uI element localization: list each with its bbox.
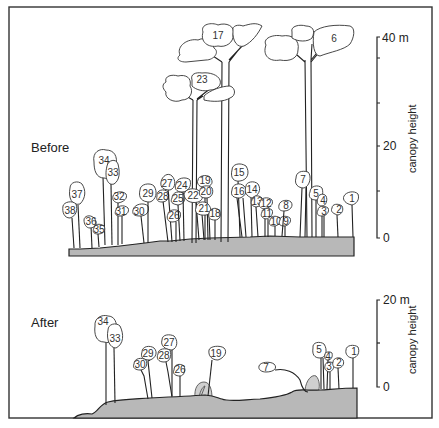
after-tree-label-5: 5	[316, 344, 322, 355]
tree-3: 3	[317, 206, 328, 238]
after-tree-28: 28	[157, 349, 172, 397]
tree-label-2: 2	[336, 204, 342, 215]
after-tree-label-30: 30	[134, 359, 146, 370]
before-scale-bottom-label: 0	[383, 231, 390, 245]
tree-label-15: 15	[233, 167, 245, 178]
tree-9: 9	[279, 216, 290, 237]
tree-label-21: 21	[198, 203, 210, 214]
tree-32: 32	[113, 191, 127, 246]
tree-31: 31	[115, 206, 128, 245]
tree-label-25: 25	[172, 193, 184, 204]
tree-27: 27	[161, 174, 175, 242]
tree-label-1: 1	[349, 193, 355, 204]
after-tree-label-7: 7	[263, 362, 269, 373]
tree-label-30: 30	[133, 206, 145, 217]
tree-30: 30	[133, 204, 149, 243]
tree-label-38: 38	[64, 205, 76, 216]
tree-38: 38	[63, 202, 77, 248]
after-tree-label-28: 28	[158, 350, 170, 361]
after-label: After	[31, 315, 59, 330]
tree-label-9: 9	[283, 216, 289, 227]
after-tree-label-33: 33	[109, 333, 121, 344]
after-scale-bar: 20 m 0 canopy height	[377, 293, 418, 394]
tree-18: 18	[209, 208, 221, 241]
tree-label-18: 18	[209, 208, 221, 219]
tree-label-23: 23	[196, 74, 208, 85]
diagram-canvas: Before 17 23 6	[0, 0, 439, 428]
after-tree-30: 30	[133, 358, 148, 399]
after-tree-1: 1	[346, 345, 359, 388]
before-axis-title: canopy height	[406, 105, 418, 174]
after-tree-29: 29	[141, 346, 156, 398]
after-tree-label-1: 1	[351, 346, 357, 357]
after-tree-label-29: 29	[142, 348, 154, 359]
tree-label-4: 4	[320, 195, 326, 206]
after-tree-label-3: 3	[326, 361, 332, 372]
before-scale-top-label: 40 m	[382, 31, 409, 45]
after-panel: After 34 33 29 30	[31, 293, 418, 418]
tree-label-17: 17	[212, 30, 224, 41]
before-panel: Before 17 23 6	[31, 24, 418, 256]
tree-label-35: 35	[93, 224, 105, 235]
after-tree-7: 7	[259, 362, 308, 393]
after-tree-label-2: 2	[336, 357, 342, 368]
before-scale-bar: 40 m 20 0 canopy height	[377, 31, 418, 245]
tree-label-7: 7	[300, 174, 306, 185]
after-scale-bottom-label: 0	[383, 380, 390, 394]
after-scale-top-label: 20 m	[383, 293, 410, 307]
after-tree-label-34: 34	[97, 316, 109, 327]
tree-label-37: 37	[71, 189, 83, 200]
tree-label-14: 14	[246, 184, 258, 195]
tree-1: 1	[343, 192, 358, 237]
after-tree-33: 33	[107, 324, 122, 403]
tree-label-19: 19	[199, 175, 211, 186]
forest-profile-diagram: Before 17 23 6	[0, 0, 439, 428]
tree-2: 2	[331, 204, 342, 238]
after-tree-label-26: 26	[174, 364, 186, 375]
tree-label-8: 8	[283, 200, 289, 211]
before-label: Before	[31, 140, 69, 155]
tree-label-28: 28	[157, 191, 169, 202]
tree-label-22: 22	[187, 190, 199, 201]
tree-label-31: 31	[115, 206, 127, 217]
tree-label-20: 20	[200, 186, 212, 197]
tree-16: 16	[231, 184, 246, 237]
after-tree-26: 26	[173, 364, 186, 398]
tree-label-16: 16	[233, 186, 245, 197]
after-tree-label-27: 27	[163, 337, 175, 348]
tree-label-32: 32	[113, 191, 125, 202]
before-scale-mid-label: 20	[383, 139, 397, 153]
tree-35: 35	[93, 224, 105, 248]
tree-7: 7	[295, 171, 310, 237]
tree-label-29: 29	[142, 188, 154, 199]
tree-label-3: 3	[321, 206, 327, 217]
after-tree-label-19: 19	[210, 348, 222, 359]
tree-label-27: 27	[161, 178, 173, 189]
tree-label-24: 24	[176, 180, 188, 191]
after-ground	[74, 388, 357, 418]
tree-label-33: 33	[107, 167, 119, 178]
after-tree-2: 2	[333, 357, 344, 390]
after-axis-title: canopy height	[406, 306, 418, 375]
tree-label-6: 6	[331, 33, 337, 44]
